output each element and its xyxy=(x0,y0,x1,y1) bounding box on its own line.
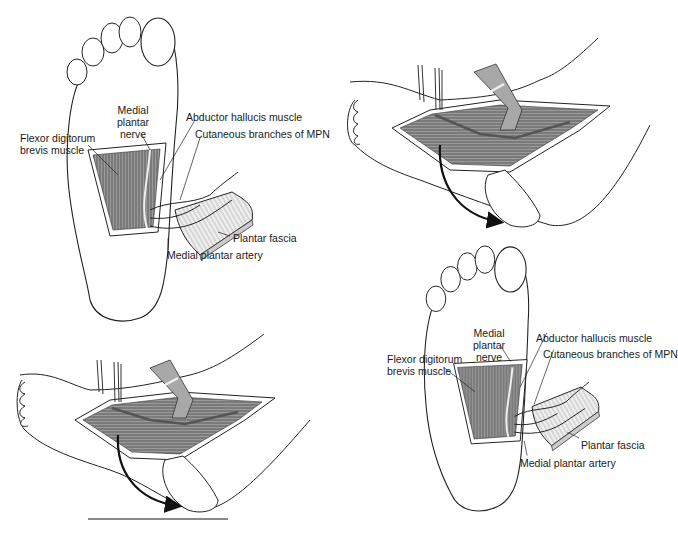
label-line: plantar xyxy=(117,116,149,128)
label-abductor-hallucis-br: Abductor hallucis muscle xyxy=(536,332,652,344)
label-medial-plantar-nerve-tl: Medial plantar nerve xyxy=(117,104,149,140)
panel-top-right-dissection xyxy=(348,38,651,227)
retractor-left xyxy=(418,65,424,102)
label-line: nerve xyxy=(117,128,149,140)
retractor-left xyxy=(97,360,103,394)
toes xyxy=(354,100,361,144)
label-abductor-hallucis-tl: Abductor hallucis muscle xyxy=(186,111,302,123)
label-flexor-digitorum-brevis-br: Flexor digitorum brevis muscle xyxy=(387,353,462,377)
retractor-right xyxy=(114,362,121,402)
label-line: Medial xyxy=(117,104,149,116)
toe-hallux xyxy=(495,247,526,292)
label-line: plantar xyxy=(473,339,505,351)
label-plantar-fascia-tl: Plantar fascia xyxy=(233,232,297,244)
heel-flap xyxy=(485,170,540,227)
label-cutaneous-branches-tl: Cutaneous branches of MPN xyxy=(195,128,330,140)
label-medial-plantar-artery-tl: Medial plantar artery xyxy=(167,249,263,261)
retractor-right xyxy=(435,68,442,110)
label-line: nerve xyxy=(473,351,505,363)
label-line: Flexor digitorum xyxy=(387,353,462,365)
toe-5 xyxy=(67,59,87,85)
toes xyxy=(20,382,28,426)
toe-2 xyxy=(119,17,141,47)
foot-outline xyxy=(20,334,264,390)
label-medial-plantar-nerve-br: Medial plantar nerve xyxy=(473,327,505,363)
label-line: brevis muscle xyxy=(387,365,462,377)
toe-3 xyxy=(458,253,478,280)
label-line: Medial xyxy=(473,327,505,339)
panel-top-left-sole xyxy=(67,17,253,321)
foot-outline xyxy=(350,38,598,100)
toe-2 xyxy=(475,246,495,273)
label-line: Flexor digitorum xyxy=(20,132,95,144)
toe-hallux xyxy=(141,18,175,66)
toe-5 xyxy=(426,286,446,311)
divider-rule xyxy=(88,518,228,520)
label-flexor-digitorum-brevis-tl: Flexor digitorum brevis muscle xyxy=(20,132,95,156)
label-medial-plantar-artery-br: Medial plantar artery xyxy=(520,457,616,469)
label-line: brevis muscle xyxy=(20,144,95,156)
label-cutaneous-branches-br: Cutaneous branches of MPN xyxy=(543,348,678,360)
heel-flap xyxy=(163,456,218,512)
label-plantar-fascia-br: Plantar fascia xyxy=(581,439,645,451)
toe-4 xyxy=(82,38,104,66)
panel-bottom-left-dissection xyxy=(17,334,310,512)
panel-bottom-right-sole xyxy=(424,246,599,511)
